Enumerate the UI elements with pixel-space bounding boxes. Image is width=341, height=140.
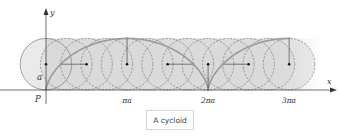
tick-label-3pi-a: 3πa — [282, 96, 296, 105]
x-axis-arrow-icon — [330, 88, 337, 93]
center-dot — [126, 63, 129, 66]
curve-point-dot — [126, 37, 128, 39]
figure-caption: A cycloid — [146, 110, 194, 130]
tick-label-2pi-a: 2πa — [200, 96, 215, 105]
y-axis-arrow-icon — [44, 8, 49, 15]
tick-label-pi-a: πa — [121, 96, 131, 105]
curve-point-dot — [288, 37, 290, 39]
center-dot — [166, 63, 169, 66]
y-axis-label: y — [49, 8, 55, 17]
center-dot — [207, 63, 210, 66]
caption-text: A cycloid — [153, 116, 187, 125]
center-dot — [85, 63, 88, 66]
curve-point-dot — [192, 63, 194, 65]
radius-label-a: a — [37, 72, 42, 82]
origin-label-p: P — [34, 94, 41, 104]
center-dot — [288, 63, 291, 66]
curve-point-dot — [60, 63, 62, 65]
curve-point-dot — [222, 63, 224, 65]
x-axis-label: x — [327, 77, 332, 86]
center-dot — [247, 63, 250, 66]
